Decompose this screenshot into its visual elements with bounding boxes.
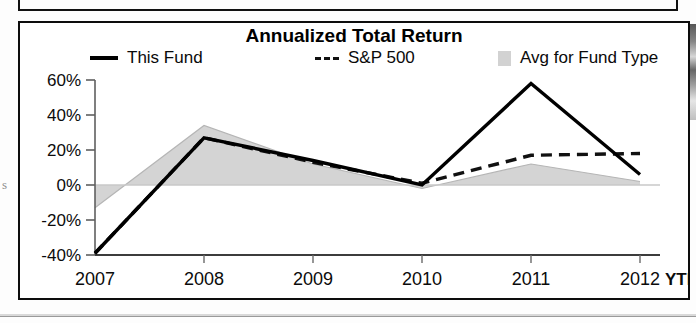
- adjacent-panel-border-fragment: [18, 0, 678, 11]
- x-axis: [95, 255, 660, 263]
- chart-svg: 60%40%20%0%-20%-40% 20072008200920102011…: [20, 23, 688, 298]
- x-tick-label: 2012: [620, 269, 660, 289]
- y-tick-label: 20%: [47, 141, 81, 160]
- scanned-page-background: s Annualized Total Return This Fund S&P …: [0, 0, 696, 323]
- y-tick-label: -20%: [41, 211, 81, 230]
- y-tick-label: -40%: [41, 246, 81, 265]
- y-axis: [86, 80, 95, 255]
- y-tick-labels: 60%40%20%0%-20%-40%: [41, 71, 81, 265]
- annualized-total-return-panel: Annualized Total Return This Fund S&P 50…: [18, 21, 690, 300]
- x-tick-label: 2011: [512, 269, 551, 289]
- y-tick-label: 0%: [56, 176, 81, 195]
- x-tick-label: 2008: [184, 269, 224, 289]
- y-tick-label: 40%: [47, 106, 81, 125]
- page-edge-text-artifact: s: [2, 178, 8, 192]
- x-tick-label: 2007: [75, 269, 115, 289]
- page-horizontal-rule-artifact-2: [0, 316, 696, 317]
- y-tick-label: 60%: [47, 71, 81, 90]
- x-axis-ytd-label: YTD: [665, 270, 688, 289]
- x-tick-label: 2009: [293, 269, 333, 289]
- x-tick-label: 2010: [402, 269, 442, 289]
- plot-area: 60%40%20%0%-20%-40% 20072008200920102011…: [20, 23, 688, 298]
- x-tick-labels: 200720082009201020112012YTD: [75, 269, 688, 289]
